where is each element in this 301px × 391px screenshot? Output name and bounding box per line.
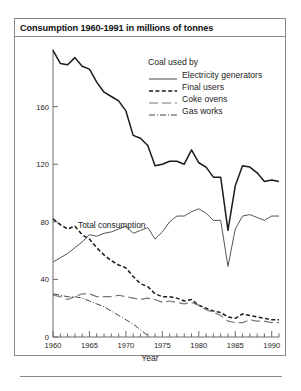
chart-legend: Coal used by Electricity generatorsFinal…: [148, 57, 288, 117]
svg-text:160: 160: [36, 103, 49, 112]
svg-text:120: 120: [36, 160, 49, 169]
legend-entry-dashdot: Gas works: [148, 105, 288, 117]
legend-label: Electricity generators: [182, 70, 262, 80]
svg-text:1965: 1965: [81, 341, 98, 350]
legend-swatch-longdash: [148, 94, 178, 104]
annotation-total-consumption: Total consumption: [78, 220, 146, 230]
legend-title: Coal used by: [148, 57, 288, 67]
legend-entries: Electricity generatorsFinal usersCoke ov…: [148, 69, 288, 117]
page-title: Consumption 1960-1991 in millions of ton…: [15, 23, 213, 33]
svg-text:80: 80: [41, 218, 49, 227]
legend-swatch-dashed: [148, 82, 178, 92]
legend-entry-solid: Electricity generators: [148, 69, 288, 81]
legend-entry-dashed: Final users: [148, 81, 288, 93]
legend-label: Gas works: [182, 106, 223, 116]
svg-text:1985: 1985: [227, 341, 244, 350]
plot-area: 040801201601960196519701975198019851990 …: [15, 37, 285, 356]
legend-label: Coke ovens: [182, 94, 227, 104]
chart-title-bar: Consumption 1960-1991 in millions of ton…: [15, 19, 285, 37]
svg-text:1970: 1970: [117, 341, 134, 350]
series-line: [53, 209, 279, 267]
series-line: [53, 294, 148, 336]
svg-text:1990: 1990: [263, 341, 280, 350]
svg-text:1960: 1960: [45, 341, 62, 350]
legend-label: Final users: [182, 82, 224, 92]
svg-text:1975: 1975: [154, 341, 171, 350]
svg-text:1980: 1980: [190, 341, 207, 350]
legend-entry-longdash: Coke ovens: [148, 93, 288, 105]
svg-text:40: 40: [41, 275, 49, 284]
chart-figure: Consumption 1960-1991 in millions of ton…: [14, 18, 286, 356]
legend-swatch-solid: [148, 70, 178, 80]
legend-swatch-dashdot: [148, 106, 178, 116]
x-axis-title: Year: [15, 353, 285, 363]
series-line: [53, 294, 279, 323]
page-divider: [20, 376, 282, 377]
series-line: [53, 219, 279, 320]
